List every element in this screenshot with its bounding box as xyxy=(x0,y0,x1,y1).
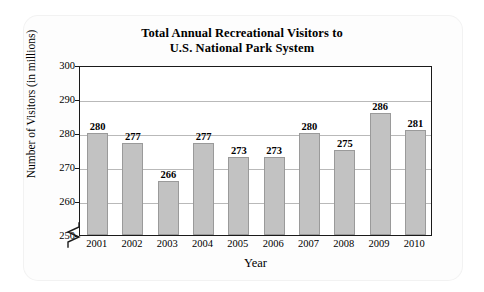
bar-value-label: 273 xyxy=(254,145,294,156)
bar xyxy=(405,130,426,235)
x-axis-tick-label: 2010 xyxy=(394,238,434,249)
x-axis-tick-label: 2003 xyxy=(147,238,187,249)
bar xyxy=(299,133,320,235)
bar-value-label: 277 xyxy=(113,131,153,142)
y-axis-tick-label: 280 xyxy=(51,129,75,140)
bar-value-label: 280 xyxy=(78,121,118,132)
bar xyxy=(122,143,143,235)
plot-area: 280277266277273273280275286281 xyxy=(79,66,432,236)
bar xyxy=(264,157,285,235)
x-axis-tick-labels: 2001200220032004200520062007200820092010 xyxy=(79,238,432,254)
bar xyxy=(370,113,391,235)
chart-title-line-2: U.S. National Park System xyxy=(0,41,484,56)
x-axis-tick-label: 2004 xyxy=(183,238,223,249)
x-axis-tick-label: 2002 xyxy=(112,238,152,249)
y-axis-tick-label: 290 xyxy=(51,95,75,106)
x-axis-tick-label: 2001 xyxy=(77,238,117,249)
y-axis-tick-label: 260 xyxy=(51,197,75,208)
bar-series: 280277266277273273280275286281 xyxy=(80,67,431,235)
bar-value-label: 275 xyxy=(325,138,365,149)
bar xyxy=(228,157,249,235)
bar-value-label: 280 xyxy=(289,121,329,132)
bar-value-label: 281 xyxy=(395,118,435,129)
bar xyxy=(193,143,214,235)
x-axis-tick-label: 2006 xyxy=(253,238,293,249)
bar-value-label: 277 xyxy=(184,131,224,142)
y-axis-tick-labels: 250260270280290300 xyxy=(45,66,75,236)
y-axis-tick-label: 270 xyxy=(51,163,75,174)
x-axis-tick-label: 2005 xyxy=(218,238,258,249)
x-axis-label: Year xyxy=(79,256,432,271)
x-axis-tick-label: 2009 xyxy=(359,238,399,249)
chart-card: Total Annual Recreational Visitors to U.… xyxy=(0,0,484,292)
bar xyxy=(334,150,355,235)
chart-title-line-1: Total Annual Recreational Visitors to xyxy=(141,26,343,40)
x-axis-tick-label: 2008 xyxy=(324,238,364,249)
bar-value-label: 273 xyxy=(219,145,259,156)
chart-title: Total Annual Recreational Visitors to U.… xyxy=(0,26,484,55)
bar-value-label: 286 xyxy=(360,101,400,112)
bar xyxy=(87,133,108,235)
y-axis-tick-label: 300 xyxy=(51,61,75,72)
bar xyxy=(158,181,179,235)
x-axis-tick-label: 2007 xyxy=(288,238,328,249)
bar-value-label: 266 xyxy=(148,169,188,180)
y-axis-label: Number of Visitors (in millions) xyxy=(25,9,37,199)
